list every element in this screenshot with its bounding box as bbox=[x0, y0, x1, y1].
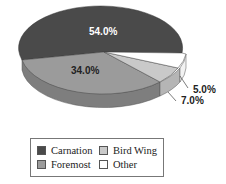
legend-item-other: Other bbox=[99, 159, 137, 170]
legend-label-foremost: Foremost bbox=[51, 159, 91, 170]
label-foremost: 34.0% bbox=[71, 65, 99, 76]
leader-other bbox=[180, 76, 188, 88]
legend-swatch-carnation bbox=[37, 146, 46, 155]
legend-label-birdwing: Bird Wing bbox=[113, 145, 157, 156]
legend-item-foremost: Foremost bbox=[37, 159, 91, 170]
chart-legend: Carnation Bird Wing Foremost Other bbox=[30, 138, 164, 177]
pie-top bbox=[19, 6, 186, 94]
legend-item-birdwing: Bird Wing bbox=[99, 145, 157, 156]
legend-swatch-other bbox=[99, 160, 108, 169]
legend-label-other: Other bbox=[113, 159, 137, 170]
legend-item-carnation: Carnation bbox=[37, 145, 92, 156]
pie-chart bbox=[0, 0, 226, 130]
label-carnation: 54.0% bbox=[89, 26, 117, 37]
legend-swatch-birdwing bbox=[99, 146, 108, 155]
leader-birdwing bbox=[168, 92, 176, 101]
label-other: 5.0% bbox=[193, 84, 216, 95]
legend-label-carnation: Carnation bbox=[51, 145, 92, 156]
legend-swatch-foremost bbox=[37, 160, 46, 169]
label-birdwing: 7.0% bbox=[181, 95, 204, 106]
